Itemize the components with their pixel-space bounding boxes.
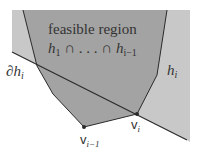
vertex-curr-label: vi (131, 117, 141, 134)
feasible-region-title: feasible region (48, 21, 137, 37)
feasible-region-diagram: feasible region h1 ∩ . . . ∩ hi−1 ∂hi hi… (0, 0, 197, 153)
vertex-prev-label: vi−1 (80, 132, 100, 149)
boundary-label: ∂hi (6, 63, 24, 81)
vertex-v-i (135, 112, 139, 116)
vertex-v-i-minus-1 (82, 125, 86, 129)
